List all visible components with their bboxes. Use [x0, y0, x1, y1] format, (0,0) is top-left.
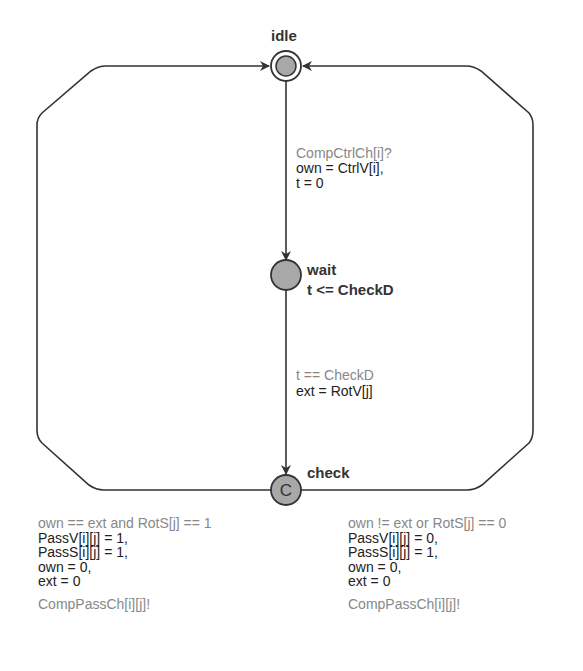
update-label: PassS[i][j] = 1,: [348, 545, 506, 560]
update-label: own = 0,: [38, 560, 212, 575]
update-label: PassV[i][j] = 1,: [38, 531, 212, 546]
update-label: PassS[i][j] = 1,: [38, 545, 212, 560]
update-label: own = 0,: [348, 560, 506, 575]
location-check: C: [271, 475, 301, 505]
edge-check-to-idle-right: [300, 66, 533, 490]
edge-check-idle-left-labels: own == ext and RotS[j] == 1 PassV[i][j] …: [38, 516, 212, 611]
update-label: PassV[i][j] = 0,: [348, 531, 506, 546]
edge-wait-check-update: ext = RotV[j]: [296, 384, 373, 399]
edge-wait-check-guard: t == CheckD: [296, 368, 374, 383]
guard-label: own == ext and RotS[j] == 1: [38, 516, 212, 531]
location-wait: [271, 260, 301, 290]
update-label: ext = 0: [38, 574, 212, 589]
sync-label: CompPassCh[i][j]!: [38, 597, 212, 612]
edge-check-idle-right-labels: own != ext or RotS[j] == 0 PassV[i][j] =…: [348, 516, 506, 611]
location-check-name: check: [307, 464, 350, 481]
location-wait-invariant: t <= CheckD: [307, 281, 394, 298]
committed-marker: C: [280, 481, 292, 500]
edge-check-to-idle-left: [37, 66, 272, 490]
location-wait-name: wait: [307, 261, 336, 278]
update-label: ext = 0: [348, 574, 506, 589]
edge-idle-wait-sync: CompCtrlCh[i]?: [296, 146, 392, 161]
edge-idle-wait-update-2: t = 0: [296, 176, 324, 191]
guard-label: own != ext or RotS[j] == 0: [348, 516, 506, 531]
edge-idle-wait-update-1: own = CtrlV[i],: [296, 161, 384, 176]
sync-label: CompPassCh[i][j]!: [348, 597, 506, 612]
location-idle-name: idle: [271, 27, 297, 44]
location-idle: [271, 51, 301, 81]
